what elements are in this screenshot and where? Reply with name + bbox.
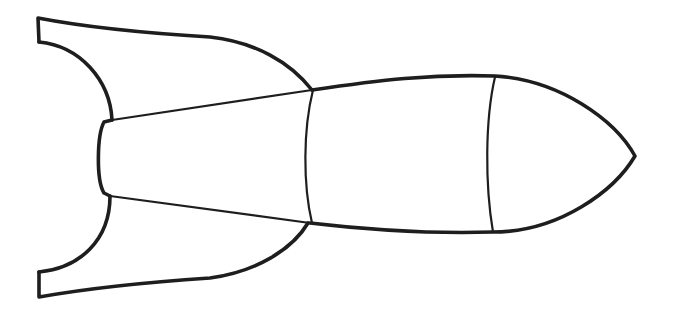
nozzle — [98, 120, 112, 196]
bottom-fin — [39, 196, 308, 297]
rocket-illustration — [0, 0, 677, 318]
rocket-drawing — [0, 0, 677, 318]
tail-section — [110, 90, 312, 223]
body-and-nose — [310, 76, 635, 233]
top-fin — [38, 18, 312, 120]
section-dividers — [305, 77, 495, 232]
